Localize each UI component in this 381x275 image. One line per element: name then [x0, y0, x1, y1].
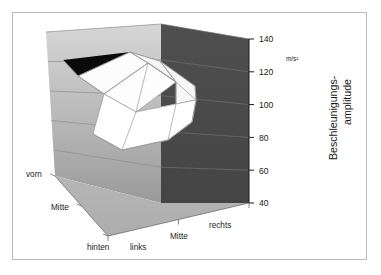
z-tick-label-60: 60 [259, 166, 269, 176]
z-tick-label-120: 120 [259, 67, 274, 77]
z-unit-label: m/s² [286, 55, 298, 62]
y-tick-label-vorn: vorn [26, 170, 42, 179]
z-tick-label-80: 80 [259, 133, 269, 143]
x-tick-label-mitte: Mitte [170, 232, 188, 241]
x-tick-label-links: links [130, 243, 146, 252]
z-tick-label-140: 140 [259, 34, 274, 44]
z-axis [249, 39, 254, 203]
surface-plot-svg: 140 120 100 80 60 40 m/s² vorn Mitte hin… [0, 0, 381, 275]
z-tick-label-40: 40 [259, 198, 269, 208]
z-tick-label-100: 100 [259, 100, 274, 110]
z-axis-title-line1: Beschleunigungs- [327, 75, 339, 160]
x-tick-label-rechts: rechts [209, 221, 231, 230]
y-tick-label-mitte: Mitte [51, 203, 69, 212]
z-axis-title-line2: amplitude [341, 79, 353, 125]
y-tick-vorn [50, 174, 55, 176]
z-axis-title: Beschleunigungs- amplitude [327, 75, 353, 160]
y-tick-label-hinten: hinten [87, 243, 110, 252]
figure-container: 140 120 100 80 60 40 m/s² vorn Mitte hin… [0, 0, 381, 275]
